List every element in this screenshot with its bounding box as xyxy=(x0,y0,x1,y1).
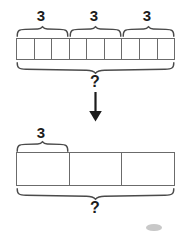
top-group-brace-2 xyxy=(69,26,122,37)
bottom-tape-cell xyxy=(17,153,70,185)
top-tape-cell xyxy=(87,39,105,59)
diagram-canvas: 3 3 3 ? xyxy=(0,0,191,231)
top-tape-cell xyxy=(70,39,88,59)
bottom-group-label-1: 3 xyxy=(31,125,51,140)
top-tape-cell xyxy=(140,39,158,59)
top-group-label-2: 3 xyxy=(84,8,104,23)
top-group-brace-3 xyxy=(122,26,175,37)
top-tape-cell xyxy=(105,39,123,59)
top-tape-bar xyxy=(16,38,175,60)
top-tape-cell xyxy=(35,39,53,59)
transform-arrow xyxy=(88,92,103,122)
page-edge-artifact xyxy=(146,224,162,231)
top-tape-cell xyxy=(122,39,140,59)
top-tape-cell xyxy=(52,39,70,59)
bottom-group-brace-1 xyxy=(16,141,69,152)
top-tape-cell xyxy=(158,39,175,59)
top-total-question-label: ? xyxy=(85,74,105,89)
top-group-label-3: 3 xyxy=(137,8,157,23)
bottom-total-question-label: ? xyxy=(85,200,105,215)
bottom-tape-cell xyxy=(122,153,174,185)
bottom-tape-bar xyxy=(16,152,175,186)
top-group-label-1: 3 xyxy=(31,8,51,23)
top-group-brace-1 xyxy=(16,26,69,37)
top-tape-cell xyxy=(17,39,35,59)
bottom-tape-cell xyxy=(70,153,123,185)
